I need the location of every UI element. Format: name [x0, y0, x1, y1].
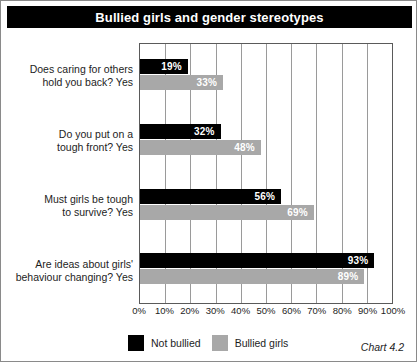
category-label-line: hold you back? Yes	[5, 76, 133, 89]
x-tick-label: 40%	[231, 305, 250, 316]
category-row: Are ideas about girls'behaviour changing…	[140, 238, 392, 303]
legend-swatch	[212, 335, 228, 351]
bar-bullied-girls: 89%	[140, 269, 364, 284]
category-label: Are ideas about girls'behaviour changing…	[5, 258, 133, 284]
chart-title-banner: Bullied girls and gender stereotypes	[7, 6, 412, 28]
x-tick-label: 50%	[256, 305, 275, 316]
x-tick-label: 90%	[358, 305, 377, 316]
bar-bullied-girls: 33%	[140, 75, 223, 90]
category-label: Do you put on atough front? Yes	[5, 128, 133, 154]
chart-caption: Chart 4.2	[361, 341, 404, 353]
bar-bullied-girls: 69%	[140, 205, 314, 220]
legend-label: Not bullied	[151, 337, 201, 349]
legend-label: Bullied girls	[235, 337, 289, 349]
category-row: Does caring for othershold you back? Yes…	[140, 44, 392, 109]
bar-not-bullied: 19%	[140, 59, 188, 74]
category-row: Must girls be toughto survive? Yes56%69%	[140, 174, 392, 239]
chart-figure: Bullied girls and gender stereotypes Doe…	[0, 0, 417, 362]
bar-value-label: 69%	[287, 207, 314, 218]
x-tick-label: 30%	[206, 305, 225, 316]
bar-value-label: 56%	[254, 191, 281, 202]
x-tick-label: 0%	[132, 305, 146, 316]
bar-value-label: 33%	[197, 77, 224, 88]
bar-value-label: 32%	[194, 126, 221, 137]
category-label-line: to survive? Yes	[5, 206, 133, 219]
category-label: Does caring for othershold you back? Yes	[5, 63, 133, 89]
category-label: Must girls be toughto survive? Yes	[5, 193, 133, 219]
chart-legend: Not bulliedBullied girls	[128, 335, 288, 351]
category-label-line: Does caring for others	[5, 63, 133, 76]
bar-not-bullied: 56%	[140, 189, 281, 204]
x-tick-label: 20%	[180, 305, 199, 316]
x-axis: 0%10%20%30%40%50%60%70%80%90%100%	[139, 305, 393, 321]
bar-value-label: 48%	[234, 142, 261, 153]
chart-title: Bullied girls and gender stereotypes	[95, 10, 323, 25]
category-label-line: behaviour changing? Yes	[5, 271, 133, 284]
category-label-line: Must girls be tough	[5, 193, 133, 206]
x-tick-label: 100%	[381, 305, 405, 316]
category-label-line: Are ideas about girls'	[5, 258, 133, 271]
category-label-line: tough front? Yes	[5, 141, 133, 154]
bar-value-label: 19%	[161, 61, 188, 72]
x-tick-label: 70%	[307, 305, 326, 316]
x-tick-label: 80%	[333, 305, 352, 316]
legend-swatch	[128, 335, 144, 351]
plot-area: Does caring for othershold you back? Yes…	[139, 43, 393, 304]
bar-not-bullied: 93%	[140, 253, 374, 268]
legend-item-not-bullied[interactable]: Not bullied	[128, 335, 201, 351]
category-row: Do you put on atough front? Yes32%48%	[140, 109, 392, 174]
bar-value-label: 89%	[338, 271, 365, 282]
bar-value-label: 93%	[348, 255, 375, 266]
legend-item-bullied-girls[interactable]: Bullied girls	[212, 335, 289, 351]
x-tick-label: 10%	[155, 305, 174, 316]
category-label-line: Do you put on a	[5, 128, 133, 141]
x-tick-label: 60%	[282, 305, 301, 316]
bar-not-bullied: 32%	[140, 124, 221, 139]
bar-bullied-girls: 48%	[140, 140, 261, 155]
